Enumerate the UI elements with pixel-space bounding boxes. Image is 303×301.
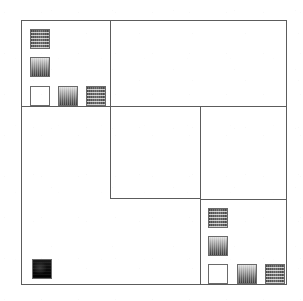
bottom-left-swatch-group [0,0,303,301]
figure-canvas [0,0,303,301]
swatch-dark-1[interactable] [32,259,52,279]
